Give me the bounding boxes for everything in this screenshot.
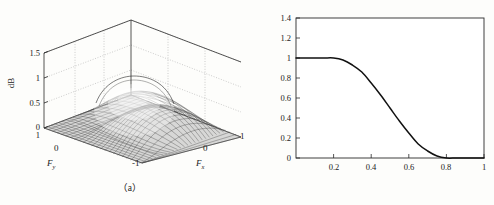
ytick-1-0: 1 [267,53,291,63]
ytick-1-2: 1.2 [267,33,291,43]
z-axis-title-dB: dB [6,78,16,89]
xtick-near-1: 1 [240,131,245,141]
top-left-edge [44,20,131,53]
panel-b-line-plot: 1.4 1.2 1 0.8 0.6 0.4 0.2 0 0.2 0.4 0.6 … [247,0,494,205]
xtick-far--1: -1 [132,158,140,168]
ytick-0-6: 0.6 [267,93,291,103]
ytick-0-4: 0.4 [267,113,291,123]
x-axis-title-Fx: Fx [196,158,204,170]
xtick-0-2: 0.2 [322,162,346,172]
ytick-0-8: 0.8 [267,73,291,83]
ztick-0-5: 0.5 [12,98,40,108]
z-axis-ticks [44,52,48,129]
ytick-near-1: 1 [12,130,40,140]
panel-a-caption: （a） [100,180,160,194]
ztick-1-5: 1.5 [12,48,40,58]
xtick-0-6: 0.6 [397,162,421,172]
xtick-0-4: 0.4 [359,162,383,172]
ytick-1-4: 1.4 [267,13,291,23]
mesh-surface [44,76,241,163]
panel-a-surface-plot: 1.5 1 0.5 0 1 dB 0 Fy -1 0 Fx 1 （a） [0,0,247,205]
top-right-edge [131,20,241,62]
xtick-1-0: 1 [472,162,494,172]
y-axis-title-Fy: Fy [47,158,55,170]
figure-container: 1.5 1 0.5 0 1 dB 0 Fy -1 0 Fx 1 （a） [0,0,494,205]
xtick-mid-0: 0 [203,143,208,153]
ytick-mid-0: 0 [54,143,59,153]
ytick-0-2: 0.2 [267,133,291,143]
plot-frame [296,18,484,158]
xtick-0-8: 0.8 [434,162,458,172]
ytick-0: 0 [267,153,291,163]
